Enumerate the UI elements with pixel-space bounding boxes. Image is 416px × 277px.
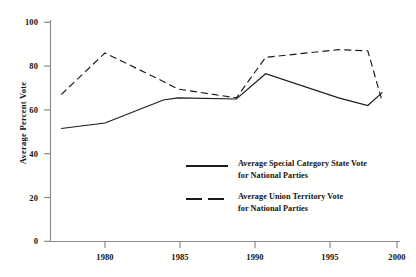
x-tick-label-1985: 1985 bbox=[160, 252, 200, 262]
y-tick-label-0: 0 bbox=[12, 236, 38, 246]
x-tick-label-2000: 2000 bbox=[377, 252, 416, 262]
chart-figure: 100 80 60 40 20 0 1980 1985 1990 1995 20… bbox=[0, 0, 416, 277]
legend-label-line2: for National Parties bbox=[238, 170, 367, 182]
y-axis-title: Average Percent Vote bbox=[18, 48, 28, 198]
legend-swatch-dashed bbox=[186, 198, 228, 200]
legend-label-line1: Average Special Category State Vote bbox=[238, 158, 367, 170]
chart-legend: Average Special Category State Vote for … bbox=[186, 158, 396, 224]
legend-entry-union-territory: Average Union Territory Vote for Nationa… bbox=[186, 191, 396, 215]
legend-label-line1: Average Union Territory Vote bbox=[238, 191, 343, 203]
legend-swatch-solid bbox=[186, 165, 228, 167]
x-tick-label-1980: 1980 bbox=[85, 252, 125, 262]
y-tick-marks bbox=[44, 22, 51, 241]
series-line-union-territory bbox=[61, 50, 382, 103]
legend-label-line2: for National Parties bbox=[238, 203, 343, 215]
series-line-special-category-state bbox=[61, 74, 382, 129]
x-tick-label-1990: 1990 bbox=[235, 252, 275, 262]
x-tick-marks bbox=[105, 242, 397, 249]
legend-entry-special-category-state: Average Special Category State Vote for … bbox=[186, 158, 396, 182]
legend-label-special-category-state: Average Special Category State Vote for … bbox=[238, 158, 367, 181]
x-tick-label-1995: 1995 bbox=[310, 252, 350, 262]
legend-label-union-territory: Average Union Territory Vote for Nationa… bbox=[238, 191, 343, 214]
chart-plot-area bbox=[0, 0, 416, 277]
y-tick-label-100: 100 bbox=[12, 17, 38, 27]
